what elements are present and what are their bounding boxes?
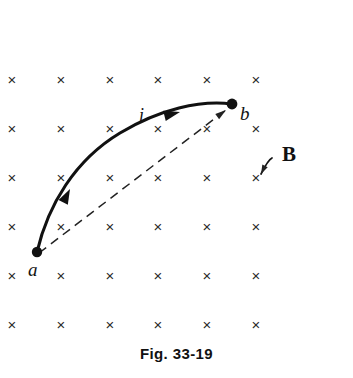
field-cross-icon: × [252, 316, 261, 333]
field-label-B: B [282, 142, 296, 166]
field-cross-icon: × [154, 120, 163, 137]
field-cross-icon: × [203, 267, 212, 284]
dashed-chord-arrowhead [215, 110, 226, 119]
figure-canvas: ×××××××××××××××××××××××××××××××××××× a b… [0, 0, 353, 378]
field-cross-icon: × [203, 169, 212, 186]
field-cross-icon: × [57, 218, 66, 235]
figure-caption: Fig. 33-19 [0, 345, 353, 362]
field-cross-icon: × [252, 267, 261, 284]
field-cross-icon: × [57, 316, 66, 333]
field-cross-icon: × [8, 316, 17, 333]
field-cross-icon: × [8, 71, 17, 88]
field-cross-icon: × [154, 71, 163, 88]
endpoint-dot-a [32, 247, 42, 257]
field-cross-icon: × [154, 169, 163, 186]
field-cross-icon: × [203, 71, 212, 88]
endpoint-dot-b [227, 99, 238, 110]
field-cross-icon: × [8, 267, 17, 284]
field-cross-icon: × [106, 120, 115, 137]
field-cross-icon: × [106, 267, 115, 284]
field-cross-icon: × [203, 218, 212, 235]
field-cross-icon: × [8, 218, 17, 235]
field-cross-icon: × [252, 71, 261, 88]
wire-arrowhead-upper [163, 111, 180, 121]
field-cross-icon: × [203, 316, 212, 333]
field-cross-icon: × [154, 218, 163, 235]
point-label-b: b [240, 103, 250, 124]
point-label-a: a [28, 259, 38, 280]
field-cross-icon: × [154, 316, 163, 333]
field-cross-icon: × [57, 120, 66, 137]
field-label-group: B [261, 142, 296, 174]
field-cross-icon: × [106, 316, 115, 333]
magnetic-field-cross-grid: ×××××××××××××××××××××××××××××××××××× [8, 71, 261, 333]
field-cross-icon: × [57, 71, 66, 88]
field-cross-icon: × [57, 267, 66, 284]
field-cross-icon: × [106, 71, 115, 88]
field-cross-icon: × [154, 267, 163, 284]
current-label-i: i [139, 105, 144, 125]
field-cross-icon: × [252, 169, 261, 186]
field-leader-arrowhead [261, 165, 268, 174]
field-cross-icon: × [252, 218, 261, 235]
field-cross-icon: × [106, 169, 115, 186]
field-cross-icon: × [8, 169, 17, 186]
field-cross-icon: × [252, 120, 261, 137]
field-cross-icon: × [57, 169, 66, 186]
field-cross-icon: × [106, 218, 115, 235]
figure-container: ×××××××××××××××××××××××××××××××××××× a b… [0, 0, 353, 378]
field-cross-icon: × [8, 120, 17, 137]
